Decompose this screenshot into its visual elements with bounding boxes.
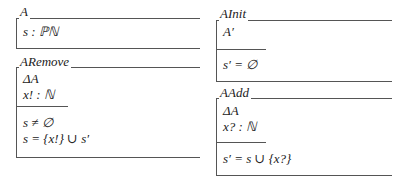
schema-ainit-divider (216, 49, 266, 50)
schema-a-top-rule (16, 18, 200, 19)
schema-ainit-predicate-1: s′ = ∅ (223, 57, 257, 72)
schema-aadd-divider (216, 142, 266, 143)
schema-ainit-title: AInit (219, 7, 248, 21)
schema-aremove-divider (16, 106, 68, 107)
schema-ainit-declaration-1: A′ (223, 24, 234, 39)
schema-aadd-declaration-1: ΔA (223, 103, 239, 118)
schema-a-left-rule (16, 18, 17, 48)
schema-aadd-title: AAdd (219, 86, 251, 100)
schema-aremove-declaration-1: ΔA (23, 71, 39, 86)
schema-aremove-left-rule (16, 67, 17, 157)
schema-a-declaration-1: s : ℙℕ (23, 24, 58, 39)
schema-aadd-bottom-rule (216, 175, 392, 176)
schema-ainit-bottom-rule (216, 81, 392, 82)
schema-aadd-predicate-1: s′ = s ∪ {x?} (223, 151, 291, 166)
schema-a-title: A (19, 5, 30, 19)
schema-aremove-bottom-rule (16, 157, 200, 158)
schema-ainit-left-rule (216, 20, 217, 81)
schema-aremove-predicate-1: s ≠ ∅ (23, 115, 53, 130)
schema-aadd-declaration-2: x? : ℕ (223, 119, 256, 134)
schema-aremove-predicate-2: s = {x!} ∪ s′ (23, 131, 89, 146)
schema-aremove-title: ARemove (19, 55, 71, 69)
schema-a-bottom-rule (16, 48, 200, 49)
schema-aadd-left-rule (216, 98, 217, 175)
schema-aremove-declaration-2: x! : ℕ (23, 87, 54, 102)
